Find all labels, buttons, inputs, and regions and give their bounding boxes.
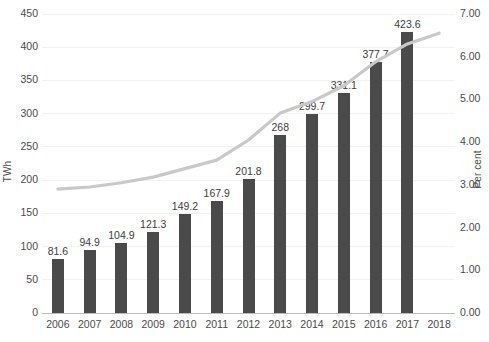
bar-value-label: 377.7 [354,48,398,60]
bar-value-label: 201.8 [227,165,271,177]
y-axis-left-tick-label: 50 [26,274,38,285]
bar-value-label: 268 [258,121,302,133]
gridline [42,113,455,114]
bar-value-label: 167.9 [195,187,239,199]
y-axis-left-tick-label: 300 [20,108,38,119]
y-axis-title-left: TWh [2,152,13,192]
bar [274,135,286,313]
y-axis-right-tick-label: 0.00 [460,307,480,318]
bar [338,93,350,313]
bar [84,250,96,313]
y-axis-left-tick-label: 250 [20,141,38,152]
chart-canvas: TWh Per cent 450400350300250200150100500… [0,0,489,342]
bar-value-label: 149.2 [163,200,207,212]
bar [211,201,223,313]
y-axis-right-tick-label: 4.00 [460,136,480,147]
bar [52,259,64,313]
y-axis-right-tick-label: 6.00 [460,51,480,62]
gridline [42,14,455,15]
bar-value-label: 423.6 [385,18,429,30]
gridline [42,146,455,147]
y-axis-right-tick-label: 3.00 [460,179,480,190]
y-axis-left-tick-label: 150 [20,207,38,218]
bar [115,243,127,313]
bar [401,32,413,313]
y-axis-right-tick-label: 1.00 [460,264,480,275]
bar [147,232,159,313]
gridline [42,80,455,81]
bar-value-label: 331.1 [322,79,366,91]
bar [306,114,318,313]
bar [179,214,191,313]
y-axis-right-tick-label: 7.00 [460,8,480,19]
bar [243,179,255,313]
y-axis-left-tick-label: 400 [20,41,38,52]
y-axis-right-tick-label: 2.00 [460,222,480,233]
y-axis-left-tick-label: 0 [32,307,38,318]
y-axis-left-tick-label: 450 [20,8,38,19]
bar-value-label: 299.7 [290,100,334,112]
y-axis-right-tick-label: 5.00 [460,93,480,104]
x-axis-tick-label: 2018 [417,318,461,330]
bar-value-label: 104.9 [99,229,143,241]
bar [370,62,382,313]
y-axis-left-tick-label: 200 [20,174,38,185]
bar-value-label: 121.3 [131,218,175,230]
y-axis-left-tick-label: 350 [20,74,38,85]
